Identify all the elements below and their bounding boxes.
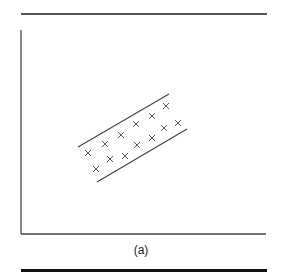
x-marker-icon <box>163 103 169 109</box>
x-marker-icon <box>85 150 91 156</box>
x-marker-icon <box>122 153 128 159</box>
x-marker-icon <box>149 113 155 119</box>
bottom-rule <box>21 269 267 272</box>
margin-lines <box>78 94 187 182</box>
x-marker-icon <box>102 141 108 147</box>
x-marker-icon <box>134 142 140 148</box>
figure-caption: (a) <box>0 243 282 257</box>
scatter-diagram <box>0 0 297 276</box>
x-marker-icon <box>93 166 99 172</box>
x-marker-icon <box>118 132 124 138</box>
x-marker-icon <box>107 156 113 162</box>
x-marker-icon <box>133 121 139 127</box>
data-points <box>85 103 181 172</box>
x-marker-icon <box>149 135 155 141</box>
upper-margin-line <box>78 94 169 147</box>
axes <box>21 30 266 234</box>
x-marker-icon <box>175 120 181 126</box>
lower-margin-line <box>97 129 187 182</box>
x-marker-icon <box>161 125 167 131</box>
